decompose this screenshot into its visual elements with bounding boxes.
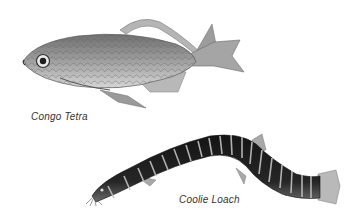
fish-drawings [0,0,358,219]
congo-tetra-fish [23,19,244,108]
coolie-loach-caption: Coolie Loach [179,194,240,205]
congo-tetra-caption: Congo Tetra [31,111,88,122]
fish-illustration: Congo Tetra Coolie Loach [0,0,358,219]
